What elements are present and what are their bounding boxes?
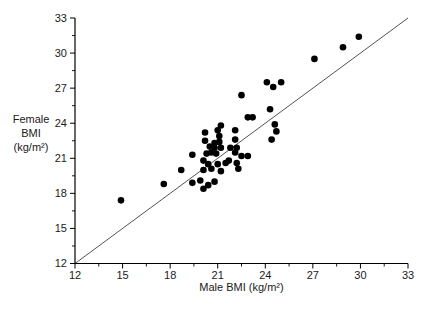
data-point — [235, 166, 242, 173]
data-point — [232, 127, 239, 134]
data-point — [238, 92, 245, 99]
data-point — [232, 149, 239, 156]
x-tick-label: 24 — [259, 269, 271, 281]
data-point — [340, 44, 347, 51]
data-point — [268, 136, 275, 143]
scatter-plot-canvas: 12151821242730331215182124273033 — [0, 0, 428, 312]
data-point — [216, 133, 223, 140]
data-point — [202, 137, 209, 144]
data-point — [356, 33, 363, 40]
data-point — [200, 167, 207, 174]
data-point — [202, 129, 209, 136]
data-point — [267, 106, 274, 113]
data-point — [245, 153, 252, 160]
x-axis-label: Male BMI (kg/m²) — [75, 281, 408, 293]
data-point — [218, 144, 225, 151]
data-point — [214, 161, 221, 168]
data-point — [233, 160, 240, 167]
x-tick-label: 12 — [69, 269, 81, 281]
data-point — [238, 153, 245, 160]
data-point — [213, 150, 220, 157]
data-point — [227, 144, 234, 151]
data-point — [218, 168, 225, 175]
data-point — [216, 139, 223, 146]
data-point — [226, 157, 233, 164]
x-tick-label: 21 — [212, 269, 224, 281]
y-axis-label: Female BMI (kg/m²) — [4, 112, 58, 154]
y-axis-label-line-2: BMI — [4, 126, 58, 140]
data-point — [208, 166, 215, 173]
data-point — [232, 136, 239, 143]
data-point — [272, 121, 279, 128]
data-point — [249, 114, 256, 121]
data-point — [278, 79, 285, 86]
data-point — [197, 177, 204, 184]
y-tick-label: 12 — [55, 257, 67, 269]
data-point — [214, 127, 221, 134]
x-tick-label: 27 — [307, 269, 319, 281]
data-point — [273, 128, 280, 135]
data-point — [211, 178, 218, 185]
y-tick-label: 33 — [55, 12, 67, 24]
data-point — [264, 79, 271, 86]
data-point — [189, 151, 196, 158]
data-point — [118, 197, 125, 204]
y-tick-label: 30 — [55, 47, 67, 59]
data-point — [161, 181, 168, 188]
x-tick-label: 18 — [164, 269, 176, 281]
y-axis-label-line-3: (kg/m²) — [4, 140, 58, 154]
identity-line — [75, 18, 408, 264]
y-tick-label: 18 — [55, 187, 67, 199]
data-point — [178, 167, 185, 174]
x-tick-label: 33 — [402, 269, 414, 281]
data-point — [311, 56, 318, 63]
x-tick-label: 15 — [116, 269, 128, 281]
y-tick-label: 27 — [55, 82, 67, 94]
scatter-figure: 12151821242730331215182124273033 Female … — [0, 0, 428, 312]
x-tick-label: 30 — [354, 269, 366, 281]
y-tick-label: 15 — [55, 222, 67, 234]
data-point — [200, 185, 207, 192]
data-point — [270, 84, 277, 91]
y-axis-label-line-1: Female — [4, 112, 58, 126]
data-point — [189, 180, 196, 187]
